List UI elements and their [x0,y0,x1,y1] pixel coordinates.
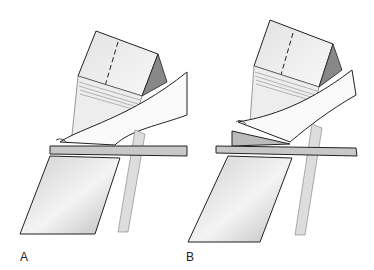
illustration [0,0,374,270]
panel-a [20,31,187,234]
panel-label-b: B [186,250,194,264]
panel-b [188,20,357,242]
panel-label-a: A [20,250,28,264]
